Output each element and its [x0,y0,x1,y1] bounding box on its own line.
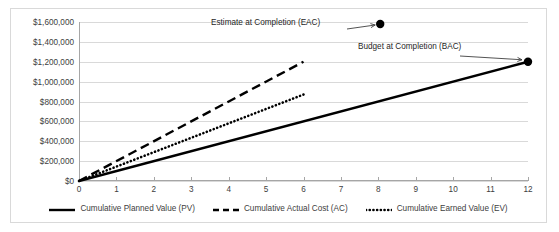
chart-legend: Cumulative Planned Value (PV)Cumulative … [11,204,546,213]
legend-swatch-solid [49,206,75,212]
bac-leader-arrow [460,56,522,62]
legend-item: Cumulative Planned Value (PV) [49,204,195,213]
legend-swatch-dotted [366,206,392,212]
legend-label: Cumulative Earned Value (EV) [397,204,508,213]
legend-item: Cumulative Earned Value (EV) [366,204,508,213]
legend-swatch-dashed [213,206,239,212]
eac-leader-arrow [347,24,375,29]
legend-label: Cumulative Actual Cost (AC) [244,204,348,213]
legend-item: Cumulative Actual Cost (AC) [213,204,348,213]
legend-label: Cumulative Planned Value (PV) [80,204,195,213]
chart-frame: $0$200,000$400,000$600,000$800,000$1,000… [10,8,547,223]
annotation-leader-lines [11,9,546,222]
